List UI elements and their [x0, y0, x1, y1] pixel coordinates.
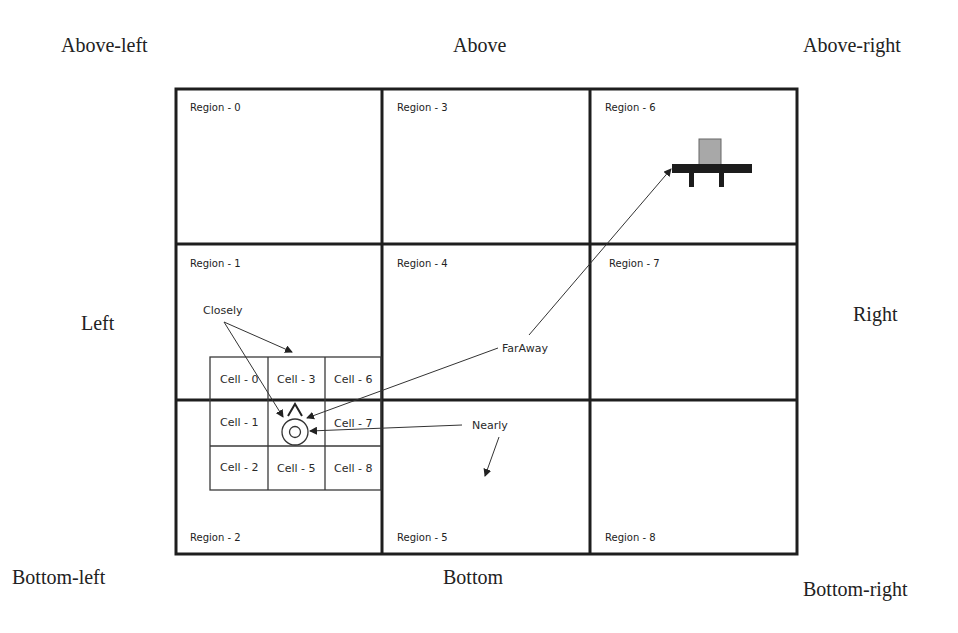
cell-6-label: Cell - 6 — [334, 373, 373, 386]
callout-closely-label: Closely — [203, 304, 243, 317]
heading-triangle-icon — [288, 404, 302, 416]
direction-left: Left — [81, 312, 115, 334]
cell-8-label: Cell - 8 — [334, 462, 373, 475]
cell-0-label: Cell - 0 — [220, 373, 259, 386]
cell-2-label: Cell - 2 — [220, 461, 259, 474]
region-4-label: Region - 4 — [397, 258, 448, 269]
arrow-nearly-to-target — [310, 425, 462, 431]
region-1-label: Region - 1 — [190, 258, 241, 269]
arrow-faraway-to-object — [529, 169, 671, 335]
region-2-label: Region - 2 — [190, 532, 241, 543]
region-3-label: Region - 3 — [397, 102, 448, 113]
region-0-label: Region - 0 — [190, 102, 241, 113]
cell-3-label: Cell - 3 — [277, 373, 316, 386]
cell-7-label: Cell - 7 — [334, 417, 373, 430]
cell-1-label: Cell - 1 — [220, 416, 259, 429]
direction-bottom: Bottom — [443, 566, 503, 588]
arrow-nearly-down — [485, 437, 499, 476]
direction-bottom-left: Bottom-left — [12, 566, 106, 588]
direction-above-right: Above-right — [803, 34, 901, 57]
direction-above: Above — [453, 34, 506, 56]
direction-right: Right — [853, 303, 898, 326]
direction-bottom-right: Bottom-right — [803, 578, 908, 601]
callout-faraway-label: FarAway — [502, 342, 548, 355]
arrow-closely-to-target — [224, 322, 283, 417]
region-6-label: Region - 6 — [605, 102, 656, 113]
region-8-label: Region - 8 — [605, 532, 656, 543]
callout-nearly-label: Nearly — [472, 419, 508, 432]
cell-5-label: Cell - 5 — [277, 462, 316, 475]
table-object-icon — [672, 139, 752, 187]
region-7-label: Region - 7 — [609, 258, 660, 269]
direction-above-left: Above-left — [61, 34, 148, 56]
spatial-relation-diagram: Above-left Above Above-right Left Right … — [0, 0, 958, 633]
target-circle-icon — [282, 419, 308, 445]
region-5-label: Region - 5 — [397, 532, 448, 543]
arrow-closely-to-cell-3 — [224, 322, 292, 352]
